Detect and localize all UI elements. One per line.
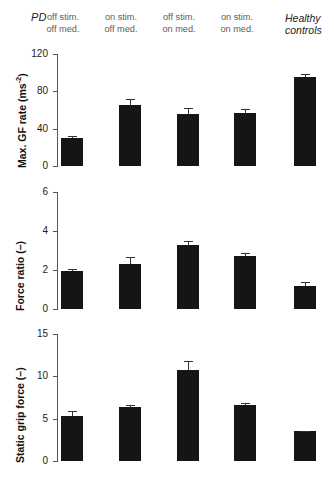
healthy-controls-group-label: Healthy controls (285, 12, 327, 36)
bar (294, 77, 316, 166)
column-header-off-stim-off-med: off stim. off med. (35, 12, 91, 35)
column-header-line2: on med. (151, 24, 207, 36)
error-bar (305, 74, 306, 78)
healthy-controls-label-line1: Healthy (285, 12, 321, 24)
error-bar (305, 431, 306, 432)
column-header-on-stim-off-med: on stim. off med. (93, 12, 149, 35)
column-header-line1: off stim. (163, 12, 195, 22)
healthy-controls-label-line2: controls (285, 24, 322, 36)
column-header-line1: on stim. (221, 12, 253, 22)
bar (294, 286, 316, 309)
healthy-controls-group-panel (0, 462, 48, 477)
bar (294, 431, 316, 461)
column-header-line1: on stim. (105, 12, 137, 22)
error-bar-cap (301, 74, 310, 75)
error-bar (305, 282, 306, 286)
column-header-line2: off med. (35, 24, 91, 36)
column-header-on-stim-on-med: on stim. on med. (209, 12, 265, 35)
error-bar-cap (301, 431, 310, 432)
column-header-line2: off med. (93, 24, 149, 36)
figure-root: PD Healthy controls off stim. off med. o… (0, 0, 334, 477)
column-header-off-stim-on-med: off stim. on med. (151, 12, 207, 35)
pd-group-panel (0, 0, 252, 462)
column-header-line1: off stim. (47, 12, 79, 22)
column-header-line2: on med. (209, 24, 265, 36)
error-bar-cap (301, 282, 310, 283)
